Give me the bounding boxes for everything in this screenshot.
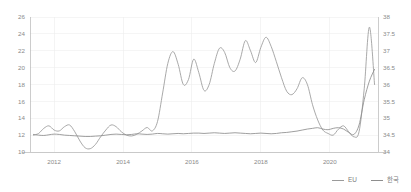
x-axis-tick-labels: 20122014201620182020 xyxy=(47,158,337,165)
svg-text:2020: 2020 xyxy=(323,158,337,165)
svg-text:36: 36 xyxy=(383,81,390,88)
svg-text:10: 10 xyxy=(18,148,25,155)
svg-text:2014: 2014 xyxy=(116,158,130,165)
svg-text:22: 22 xyxy=(18,47,25,54)
svg-text:24: 24 xyxy=(18,30,25,37)
horizontal-gridlines xyxy=(30,17,378,152)
svg-text:18: 18 xyxy=(18,81,25,88)
chart-legend: EU 한국 xyxy=(0,171,411,189)
svg-text:26: 26 xyxy=(18,13,25,20)
legend-swatch-eu xyxy=(332,180,344,181)
legend-label-eu: EU xyxy=(348,177,357,183)
legend-item-eu[interactable]: EU xyxy=(332,177,357,183)
svg-text:35: 35 xyxy=(383,114,390,121)
svg-text:37: 37 xyxy=(383,47,390,54)
chart-plot-area: 101214161820222426 3434.53535.53636.5373… xyxy=(0,0,411,192)
svg-text:35.5: 35.5 xyxy=(383,98,396,105)
svg-text:38: 38 xyxy=(383,13,390,20)
svg-text:16: 16 xyxy=(18,98,25,105)
svg-text:37.5: 37.5 xyxy=(383,30,396,37)
right-axis-tick-labels: 3434.53535.53636.53737.538 xyxy=(383,13,396,155)
svg-text:34.5: 34.5 xyxy=(383,131,396,138)
svg-text:2016: 2016 xyxy=(185,158,199,165)
svg-text:34: 34 xyxy=(383,148,390,155)
series-line-EU xyxy=(33,27,374,149)
legend-swatch-korea xyxy=(371,180,383,181)
svg-text:2018: 2018 xyxy=(254,158,268,165)
line-chart: 101214161820222426 3434.53535.53636.5373… xyxy=(0,0,411,192)
left-axis-tick-labels: 101214161820222426 xyxy=(18,13,25,155)
svg-text:12: 12 xyxy=(18,131,25,138)
svg-text:36.5: 36.5 xyxy=(383,64,396,71)
svg-text:2012: 2012 xyxy=(47,158,61,165)
svg-text:20: 20 xyxy=(18,64,25,71)
series-lines xyxy=(33,27,374,149)
legend-label-korea: 한국 xyxy=(387,177,399,183)
svg-text:14: 14 xyxy=(18,114,25,121)
legend-item-korea[interactable]: 한국 xyxy=(371,177,399,183)
series-line-한국 xyxy=(33,69,374,136)
